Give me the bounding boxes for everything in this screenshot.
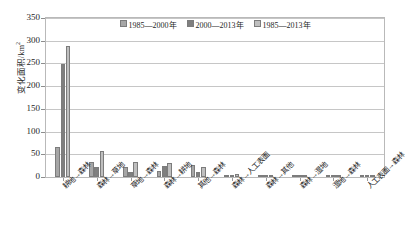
bar-series-container	[46, 18, 384, 177]
bar	[94, 167, 99, 177]
x-axis-labels: 耕地→森林森林→草地草地→森林森林→耕地其他→森林森林→人工表面森林→其他森林→…	[0, 178, 396, 250]
bar-group	[215, 18, 249, 177]
bar	[326, 175, 331, 177]
bar-group	[46, 18, 80, 177]
y-axis-title: 变化面积/km2	[14, 22, 26, 114]
y-tick-label: 250	[27, 57, 41, 67]
bar	[292, 175, 297, 177]
bar	[258, 175, 263, 177]
y-tick-label: 100	[27, 126, 41, 136]
bar	[196, 172, 201, 177]
bar-group	[350, 18, 384, 177]
bar-group	[283, 18, 317, 177]
bar-group	[114, 18, 148, 177]
bar	[157, 171, 162, 177]
bar-group	[181, 18, 215, 177]
bar	[162, 166, 167, 177]
y-tick-label: 200	[27, 80, 41, 90]
y-tick-label: 350	[27, 12, 41, 22]
bar	[128, 172, 133, 177]
bar	[55, 147, 60, 177]
bar	[224, 175, 229, 177]
bar-group	[147, 18, 181, 177]
y-axis-title-superscript: 2	[15, 42, 21, 45]
y-tick-label: 300	[27, 35, 41, 45]
bar	[61, 64, 66, 177]
bar	[360, 175, 365, 177]
bar	[263, 175, 268, 177]
bar	[66, 46, 71, 177]
y-axis-title-text: 变化面积/km	[16, 45, 26, 94]
bar	[297, 175, 302, 177]
bar-group	[80, 18, 114, 177]
bar-group	[316, 18, 350, 177]
y-tick-label: 150	[27, 103, 41, 113]
y-tick-label: 50	[31, 148, 40, 158]
